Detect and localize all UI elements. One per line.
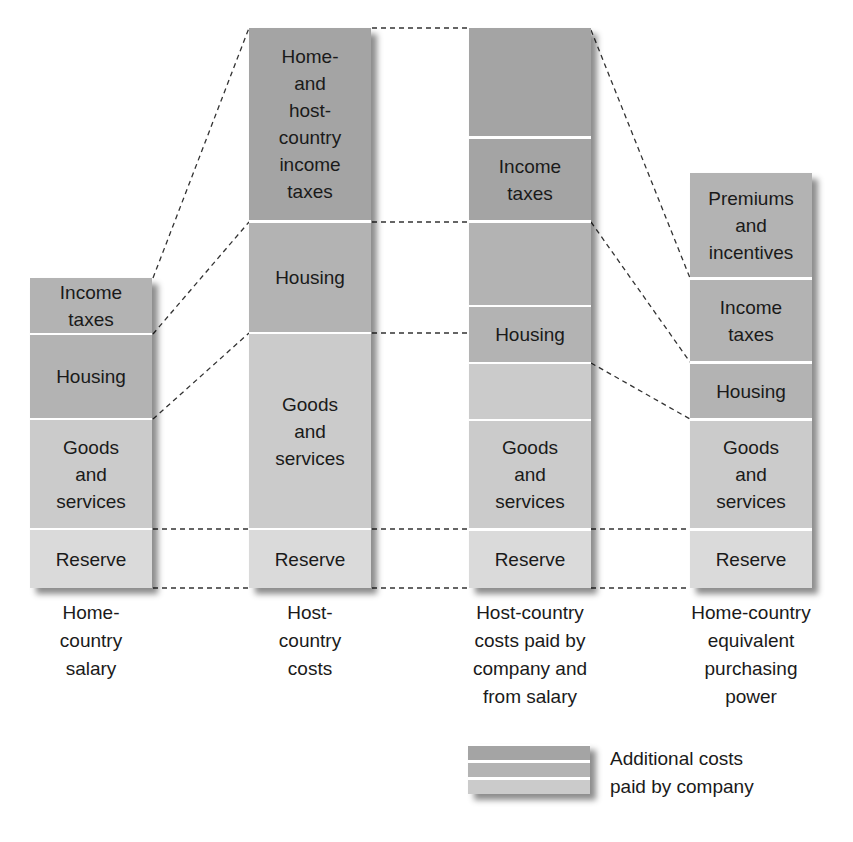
segment-additional-goods <box>469 364 591 419</box>
segment-reserve: Reserve <box>30 530 152 588</box>
caption-host-country-costs: Host-countrycosts <box>230 599 390 683</box>
segment-additional-taxes <box>469 28 591 136</box>
segment-reserve: Reserve <box>469 531 591 588</box>
segment-reserve: Reserve <box>249 530 371 588</box>
segment-goods-and-services: Goodsandservices <box>249 334 371 528</box>
segment-housing: Housing <box>690 364 812 418</box>
segment-housing: Housing <box>249 223 371 332</box>
legend-swatch <box>468 744 590 794</box>
legend-swatch-dark <box>468 746 590 760</box>
segment-goods-and-services: Goodsandservices <box>30 420 152 528</box>
segment-housing: Housing <box>30 335 152 418</box>
segment-goods-and-services: Goodsandservices <box>690 421 812 528</box>
caption-home-country-salary: Home-countrysalary <box>11 599 171 683</box>
segment-goods-and-services: Goodsandservices <box>469 421 591 528</box>
caption-host-country-costs-paid: Host-countrycosts paid by company andfro… <box>450 599 610 711</box>
legend-label: Additional costs paid by company <box>610 745 754 801</box>
column-home-country-equivalent: Premiumsandincentives Incometaxes Housin… <box>690 173 812 588</box>
column-home-country-salary: Incometaxes Housing Goodsandservices Res… <box>30 278 152 588</box>
segment-additional-housing <box>469 223 591 305</box>
segment-income-taxes: Incometaxes <box>469 139 591 220</box>
segment-premiums-and-incentives: Premiumsandincentives <box>690 173 812 277</box>
segment-housing: Housing <box>469 307 591 362</box>
segment-reserve: Reserve <box>690 531 812 588</box>
caption-home-country-equivalent: Home-countryequivalent purchasingpower <box>671 599 831 711</box>
balance-sheet-diagram: Incometaxes Housing Goodsandservices Res… <box>0 0 853 842</box>
column-host-country-costs-paid: Incometaxes Housing Goodsandservices Res… <box>469 28 591 588</box>
segment-income-taxes: Incometaxes <box>690 280 812 361</box>
legend-swatch-light <box>468 780 590 794</box>
segment-income-taxes: Incometaxes <box>30 278 152 333</box>
segment-home-and-host-income-taxes: Home-and host-country incometaxes <box>249 28 371 220</box>
column-host-country-costs: Home-and host-country incometaxes Housin… <box>249 28 371 588</box>
legend-swatch-mid <box>468 763 590 777</box>
